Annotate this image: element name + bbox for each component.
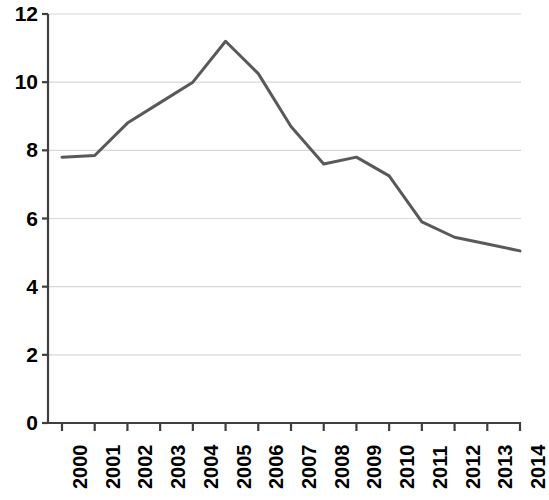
x-tick-label-2004: 2004 xyxy=(201,445,221,490)
x-tick-label-2000: 2000 xyxy=(70,445,90,490)
x-tick-label-2008: 2008 xyxy=(332,445,352,490)
x-tick-label-2005: 2005 xyxy=(234,445,254,490)
x-tick-label-2002: 2002 xyxy=(135,445,155,490)
x-tick-label-2003: 2003 xyxy=(168,445,188,490)
x-tick-label-2011: 2011 xyxy=(430,446,450,489)
x-tick-label-2009: 2009 xyxy=(364,445,384,490)
x-tick-label-2001: 2001 xyxy=(103,445,123,490)
x-tick-label-2006: 2006 xyxy=(266,445,286,490)
x-tick-label-2007: 2007 xyxy=(299,445,319,490)
x-tick-label-2013: 2013 xyxy=(495,445,515,490)
x-tick-label-2012: 2012 xyxy=(463,445,483,490)
x-tick-label-2014: 2014 xyxy=(528,445,548,490)
x-tick-label-2010: 2010 xyxy=(397,445,417,490)
